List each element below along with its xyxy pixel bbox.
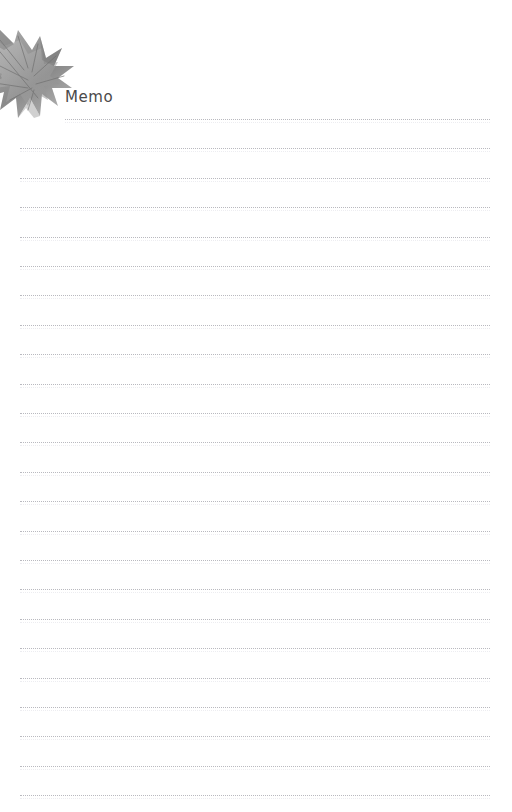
note-line[interactable] [20,295,490,296]
note-line[interactable] [20,442,490,443]
memo-page: Memo [0,0,512,812]
note-line[interactable] [20,472,490,473]
note-line[interactable] [20,207,490,208]
note-line[interactable] [20,531,490,532]
note-line[interactable] [20,384,490,385]
note-line[interactable] [20,354,490,355]
note-line[interactable] [20,795,490,796]
note-line[interactable] [20,501,490,502]
note-line[interactable] [20,148,490,149]
note-line[interactable] [20,736,490,737]
note-line[interactable] [20,619,490,620]
note-line[interactable] [65,119,490,120]
note-line[interactable] [20,178,490,179]
note-line[interactable] [20,325,490,326]
note-line[interactable] [20,648,490,649]
note-line[interactable] [20,237,490,238]
note-line[interactable] [20,413,490,414]
note-line[interactable] [20,589,490,590]
note-lines-area[interactable] [0,0,512,812]
note-line[interactable] [20,560,490,561]
note-line[interactable] [20,707,490,708]
note-line[interactable] [20,266,490,267]
note-line[interactable] [20,678,490,679]
note-line[interactable] [20,766,490,767]
